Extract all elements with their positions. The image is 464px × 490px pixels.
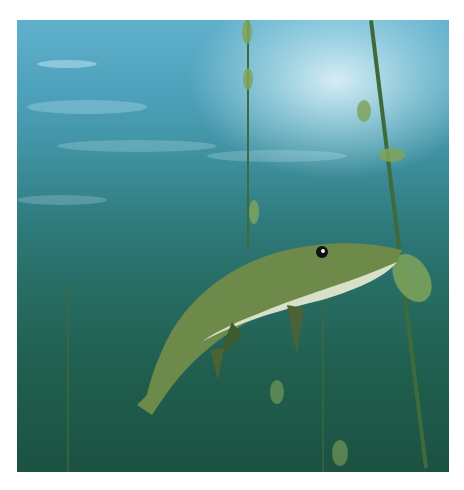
plant-leaf [332,440,348,466]
plant-leaf [249,200,259,224]
plant-leaf [379,148,405,162]
surface-ripple [57,140,217,152]
plant-leaf [357,100,371,122]
surface-ripple [27,100,147,114]
surface-ripple [37,60,97,68]
surface-ripple [17,195,107,205]
plant-leaf [242,20,252,44]
plant-stem [67,280,69,472]
surface-ripple [207,150,347,162]
pike-underwater-photo [17,20,449,472]
pike-fish [122,230,412,420]
plant-leaf [243,68,253,90]
